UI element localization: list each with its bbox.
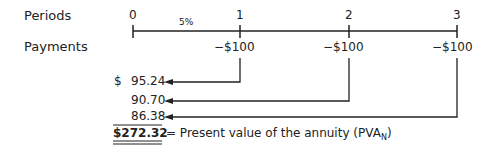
payment-3: −$100 bbox=[432, 40, 473, 54]
period-0: 0 bbox=[129, 8, 137, 22]
period-2: 2 bbox=[345, 8, 353, 22]
period-3: 3 bbox=[453, 8, 461, 22]
period-1: 1 bbox=[236, 8, 244, 22]
total-label: = Present value of the annuity (PVAN) bbox=[166, 126, 392, 142]
interest-rate: 5% bbox=[179, 17, 193, 27]
payments-label: Payments bbox=[24, 39, 88, 54]
total-pv: $272.32 bbox=[113, 126, 168, 140]
total-label-close: ) bbox=[387, 126, 392, 140]
payment-1: −$100 bbox=[214, 40, 255, 54]
periods-label: Periods bbox=[24, 8, 71, 23]
pv-3: 86.38 bbox=[131, 109, 165, 123]
pv-2: 90.70 bbox=[131, 93, 165, 107]
pv-1: 95.24 bbox=[131, 74, 165, 88]
total-label-text: = Present value of the annuity (PVA bbox=[166, 126, 381, 140]
payment-2: −$100 bbox=[323, 40, 364, 54]
currency-symbol: $ bbox=[114, 74, 122, 88]
